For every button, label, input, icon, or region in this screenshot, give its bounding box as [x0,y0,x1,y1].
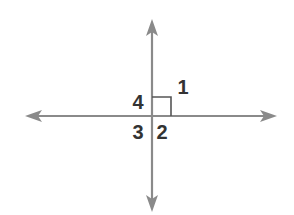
perpendicular-lines-diagram: 1 2 3 4 [0,0,294,215]
angle-label-2: 2 [156,121,167,143]
right-angle-marker [152,97,171,116]
angle-label-4: 4 [132,91,144,113]
angle-label-1: 1 [177,76,188,98]
angle-label-3: 3 [132,121,143,143]
